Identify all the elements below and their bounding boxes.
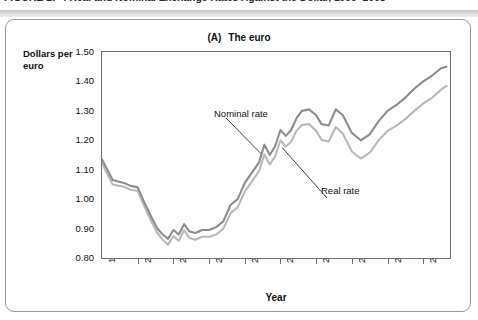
- annotation-nominal-rate: Nominal rate: [214, 108, 268, 119]
- figure-caption-bar: FIGURE 17-4 Real and Nominal Exchange Ra…: [0, 0, 478, 8]
- x-tick-mark: [316, 259, 317, 264]
- y-tick-label: 0.80: [54, 252, 94, 263]
- x-axis-title: Year: [101, 292, 451, 303]
- x-tick-mark: [173, 259, 174, 264]
- caption-divider: [0, 10, 478, 17]
- y-tick-label: 1.50: [54, 46, 94, 57]
- y-tick-label: 1.40: [54, 75, 94, 86]
- y-tick-label: 0.90: [54, 223, 94, 234]
- leader-line-nominal-rate: [226, 118, 261, 154]
- x-tick-mark: [138, 259, 139, 264]
- chart-title-text: The euro: [228, 32, 270, 43]
- y-axis-label-line2: euro: [23, 60, 44, 71]
- figure-card: (A)The euro Dollars per euro 1.501.401.3…: [5, 19, 471, 312]
- y-tick-label: 1.30: [54, 105, 94, 116]
- x-tick-mark: [388, 259, 389, 264]
- chart-title: (A)The euro: [6, 32, 472, 43]
- plot-area: [101, 51, 451, 259]
- y-tick-label: 1.20: [54, 134, 94, 145]
- figure-root: FIGURE 17-4 Real and Nominal Exchange Ra…: [0, 0, 478, 320]
- y-tick-label: 1.00: [54, 193, 94, 204]
- figure-caption: FIGURE 17-4 Real and Nominal Exchange Ra…: [4, 0, 386, 3]
- annotation-real-rate: Real rate: [321, 185, 360, 196]
- y-tick-label: 1.10: [54, 164, 94, 175]
- x-tick-mark: [423, 259, 424, 264]
- x-tick-mark: [280, 259, 281, 264]
- x-tick-mark: [352, 259, 353, 264]
- x-tick-mark: [209, 259, 210, 264]
- series-line-nominal-rate: [102, 67, 446, 239]
- chart-panel-letter: (A): [207, 32, 221, 43]
- x-tick-mark: [245, 259, 246, 264]
